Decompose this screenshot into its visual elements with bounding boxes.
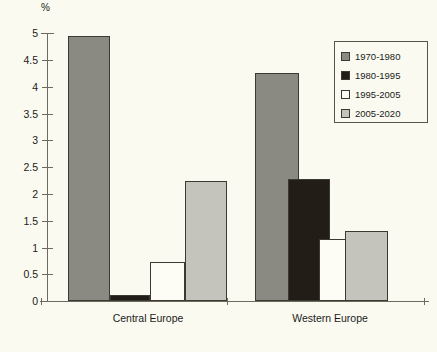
legend-swatch-1970-1980: [341, 52, 350, 61]
legend-swatch-1995-2005: [341, 90, 350, 99]
x-axis-group-label-central-europe: Central Europe: [88, 312, 208, 324]
legend-item[interactable]: 1980-1995: [341, 66, 427, 85]
legend-label: 1980-1995: [355, 71, 400, 80]
legend: 1970-1980 1980-1995 1995-2005 2005-2020: [334, 41, 428, 123]
legend-label: 2005-2020: [355, 109, 400, 118]
legend-item[interactable]: 1995-2005: [341, 85, 427, 104]
x-axis-group-label-western-europe: Western Europe: [270, 312, 390, 324]
x-axis-tick: [41, 298, 42, 305]
legend-label: 1995-2005: [355, 90, 400, 99]
legend-swatch-1980-1995: [341, 71, 350, 80]
bar-central-europe-2005-2020: [185, 181, 227, 301]
x-axis-line: [40, 301, 429, 302]
bar-western-europe-2005-2020: [345, 231, 388, 301]
bar-chart: % 5 4.5 4 3.5 3 2.5 2 1.5 1 0.5 0 Centra…: [0, 0, 437, 352]
bar-central-europe-1970-1980: [68, 36, 110, 301]
legend-item[interactable]: 2005-2020: [341, 104, 427, 123]
legend-swatch-2005-2020: [341, 109, 350, 118]
legend-item[interactable]: 1970-1980: [341, 47, 427, 66]
bar-central-europe-1995-2005: [150, 262, 185, 301]
x-axis-tick: [227, 298, 228, 305]
x-axis-tick: [424, 298, 425, 305]
legend-label: 1970-1980: [355, 52, 400, 61]
